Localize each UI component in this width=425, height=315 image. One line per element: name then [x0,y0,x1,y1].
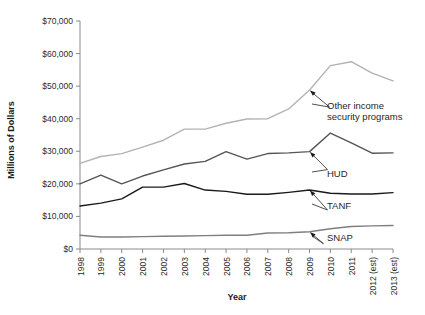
line-chart: $0$10,000$20,000$30,000$40,000$50,000$60… [0,0,425,315]
x-tick-label: 2007 [263,257,273,276]
x-tick-label: 1998 [76,257,86,276]
series-label-other-income-security-programs: Other income [327,100,384,111]
chart-container: $0$10,000$20,000$30,000$40,000$50,000$60… [0,0,425,315]
x-tick-label: 2005 [222,257,232,276]
x-axis-title: Year [227,292,247,302]
x-tick-label: 2013 (est) [389,257,399,295]
y-tick-label: $30,000 [42,146,73,156]
x-tick-label: 2008 [284,257,294,276]
x-tick-label: 2002 [159,257,169,276]
x-tick-label: 2012 (est) [368,257,378,295]
x-tick-label: 2006 [242,257,252,276]
x-tick-label: 2000 [117,257,127,276]
series-label-snap: SNAP [327,232,353,243]
x-tick-label: 2003 [180,257,190,276]
x-tick-label: 2010 [326,257,336,276]
x-tick-label: 1999 [96,257,106,276]
series-annotations: Other incomesecurity programsHUDTANFSNAP [310,91,403,244]
x-tick-label: 2004 [201,257,211,276]
y-tick-label: $60,000 [42,49,73,59]
x-tick-label: 2001 [138,257,148,276]
y-tick-label: $20,000 [42,179,73,189]
series-label-tanf: TANF [327,200,351,211]
series-label-hud: HUD [327,168,348,179]
y-tick-label: $0 [64,244,74,254]
y-tick-label: $10,000 [42,211,73,221]
x-tick-label: 2011 [347,257,357,276]
y-tick-label: $70,000 [42,16,73,26]
y-tick-label: $50,000 [42,81,73,91]
x-axis: 1998199920002001200220032004200520062007… [76,249,399,295]
y-axis: $0$10,000$20,000$30,000$40,000$50,000$60… [42,16,80,254]
y-tick-label: $40,000 [42,114,73,124]
x-tick-label: 2009 [305,257,315,276]
y-axis-title: Millions of Dollars [6,101,16,179]
series-label-other-income-security-programs-line2: security programs [327,111,403,122]
